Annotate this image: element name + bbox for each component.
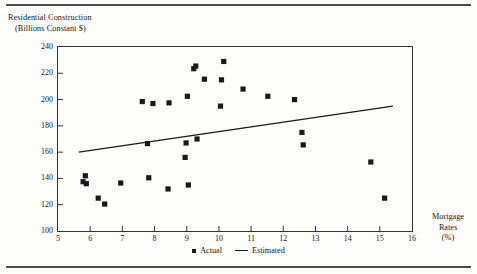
y-tick-label: 120: [27, 201, 53, 209]
scatter-plot-svg: [58, 47, 412, 231]
legend-entry-actual: Actual: [192, 246, 222, 255]
y-tick-label: 160: [27, 148, 53, 156]
y-tick-label: 240: [27, 43, 53, 51]
x-tick-label: 11: [241, 235, 261, 243]
legend-label-actual: Actual: [200, 246, 222, 255]
x-axis-label-line2: Rates: [424, 223, 472, 234]
x-tick-label: 8: [145, 235, 165, 243]
x-tick-label: 7: [112, 235, 132, 243]
y-axis-label-line1: Residential Construction: [8, 12, 92, 23]
line-marker-icon: [235, 250, 248, 251]
x-axis-label: Mortgage Rates (%): [424, 212, 472, 244]
x-tick-label: 15: [370, 235, 390, 243]
x-tick-label: 16: [402, 235, 422, 243]
x-tick-label: 6: [80, 235, 100, 243]
y-tick-label: 100: [27, 227, 53, 235]
y-tick-label: 200: [27, 96, 53, 104]
legend-entry-estimated: Estimated: [235, 246, 285, 255]
plot-area: [57, 46, 413, 232]
x-tick-label: 10: [209, 235, 229, 243]
square-marker-icon: [192, 249, 196, 253]
x-tick-label: 9: [177, 235, 197, 243]
x-axis-label-line3: (%): [424, 233, 472, 244]
y-axis-label: Residential Construction (Billions Const…: [8, 12, 92, 34]
chart-legend: Actual Estimated: [0, 246, 477, 255]
x-tick-label: 5: [48, 235, 68, 243]
x-axis-label-line1: Mortgage: [424, 212, 472, 223]
x-tick-label: 12: [273, 235, 293, 243]
figure-page: Residential Construction (Billions Const…: [0, 0, 477, 274]
y-tick-label: 220: [27, 69, 53, 77]
y-tick-label: 140: [27, 174, 53, 182]
bottom-horizontal-rule: [6, 266, 471, 268]
legend-label-estimated: Estimated: [252, 246, 285, 255]
y-axis-label-line2: (Billions Constant $): [8, 23, 92, 34]
x-tick-label: 13: [305, 235, 325, 243]
y-tick-label: 180: [27, 122, 53, 130]
top-horizontal-rule: [6, 4, 471, 6]
x-tick-label: 14: [338, 235, 358, 243]
